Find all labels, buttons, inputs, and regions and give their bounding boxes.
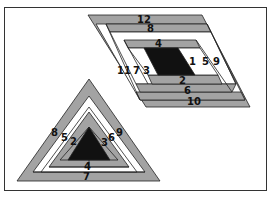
label-4: 4 xyxy=(155,38,162,49)
label-3: 3 xyxy=(143,65,150,76)
tri-label-2: 2 xyxy=(70,136,77,147)
label-6: 6 xyxy=(184,85,191,96)
label-5: 5 xyxy=(202,56,209,67)
strip-8 xyxy=(106,24,211,32)
strip-4 xyxy=(124,40,200,48)
label-1: 1 xyxy=(189,56,196,67)
label-7: 7 xyxy=(133,65,140,76)
label-9: 9 xyxy=(213,56,220,67)
label-11: 11 xyxy=(117,65,131,76)
tri-label-8: 8 xyxy=(51,127,58,138)
tri-label-5: 5 xyxy=(61,132,68,143)
tri-label-7: 7 xyxy=(83,171,90,182)
tri-label-3: 3 xyxy=(101,137,108,148)
tri-label-6: 6 xyxy=(108,132,115,143)
label-10: 10 xyxy=(187,96,201,107)
label-8: 8 xyxy=(147,23,154,34)
quilt-diagram: 12 8 4 11 7 3 1 5 9 2 6 10 8 5 2 3 6 9 4… xyxy=(0,0,272,197)
tri-label-9: 9 xyxy=(116,127,123,138)
